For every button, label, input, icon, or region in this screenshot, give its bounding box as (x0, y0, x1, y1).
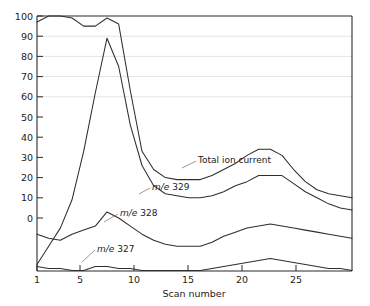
ytick-label-100: 100 (15, 11, 33, 22)
ytick-label-80: 80 (21, 51, 33, 62)
chart-background (0, 0, 370, 306)
ytick-label-90: 90 (21, 31, 33, 42)
xtick-label-1: 1 (34, 274, 40, 285)
ytick-label-0: 0 (27, 213, 33, 224)
series-label-me-329-value: 329 (172, 182, 189, 192)
xtick-label-10: 10 (128, 274, 140, 285)
series-label-me-328-prefix: m/e (120, 208, 138, 218)
ytick-label-50: 50 (21, 112, 33, 123)
chart-figure: 100 90 80 70 60 50 40 30 20 10 0 1 5 10 … (0, 0, 370, 306)
series-label-me-328-value: 328 (140, 208, 157, 218)
xtick-label-5: 5 (77, 274, 83, 285)
ytick-label-70: 70 (21, 71, 33, 82)
series-label-me-329-prefix: m/e (152, 182, 170, 192)
ytick-label-20: 20 (21, 172, 33, 183)
xtick-label-20: 20 (236, 274, 248, 285)
series-label-me-327-value: 327 (117, 244, 134, 254)
ytick-label-10: 10 (21, 192, 33, 203)
series-label-total-ion-current: Total ion current (197, 155, 271, 165)
x-axis-title: Scan number (162, 288, 225, 299)
ytick-label-60: 60 (21, 91, 33, 102)
ytick-label-30: 30 (21, 152, 33, 163)
line-chart-svg: 100 90 80 70 60 50 40 30 20 10 0 1 5 10 … (0, 0, 370, 306)
xtick-label-15: 15 (182, 274, 194, 285)
ytick-label-40: 40 (21, 132, 33, 143)
series-label-me-327-prefix: m/e (97, 244, 115, 254)
xtick-label-25: 25 (290, 274, 302, 285)
